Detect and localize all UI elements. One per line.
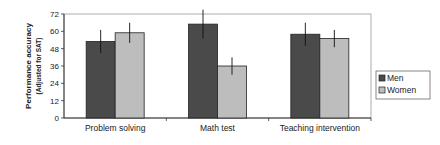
y-tick-label: 72	[50, 10, 59, 19]
bar-men	[291, 34, 320, 118]
y-axis-label: Performance accuracy (Adjusted for SAT)	[24, 23, 43, 109]
legend: MenWomen	[376, 71, 430, 99]
y-tick-label: 60	[50, 27, 59, 36]
bar-women	[320, 39, 349, 118]
y-tick-label: 36	[50, 62, 59, 71]
x-axis-categories: Problem solvingMath testTeaching interve…	[85, 118, 371, 133]
legend-label-women: Women	[387, 85, 416, 95]
y-axis-ticks: 0122436486072	[50, 10, 64, 123]
bar-chart: Performance accuracy (Adjusted for SAT) …	[0, 0, 440, 145]
legend-swatch-men	[379, 75, 385, 81]
y-tick-label: 12	[50, 97, 59, 106]
y-tick-label: 48	[50, 45, 59, 54]
legend-label-men: Men	[387, 73, 404, 83]
plot-area	[64, 10, 371, 118]
y-axis-title: Performance accuracy	[24, 23, 33, 109]
y-tick-label: 24	[50, 79, 59, 88]
y-tick-label: 0	[55, 114, 60, 123]
x-category-label: Math test	[200, 123, 236, 133]
bar-women	[115, 33, 144, 118]
x-category-label: Teaching intervention	[280, 123, 361, 133]
x-category-label: Problem solving	[85, 123, 146, 133]
y-axis-subtitle: (Adjusted for SAT)	[35, 38, 43, 95]
legend-swatch-women	[379, 87, 385, 93]
